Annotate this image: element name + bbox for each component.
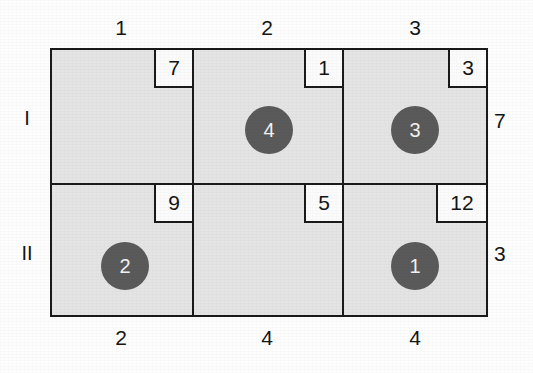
allocation-circle-II-3: 1: [391, 242, 439, 290]
allocation-circle-II-1: 2: [101, 242, 149, 290]
cost-box-II-2: 5: [304, 185, 342, 223]
cell-II-2[interactable]: 5: [194, 185, 344, 315]
cost-box-II-3: 12: [436, 185, 486, 223]
column-header-2: 2: [192, 14, 342, 42]
column-demand-2: 4: [192, 324, 342, 352]
cell-I-1[interactable]: 7: [52, 50, 194, 185]
row-supply-I: 7: [494, 110, 528, 131]
row-header-I: I: [8, 108, 46, 128]
column-header-3: 3: [342, 14, 488, 42]
cost-box-I-1: 7: [154, 50, 192, 88]
cell-I-3[interactable]: 3 3: [344, 50, 486, 185]
column-demand-3: 4: [342, 324, 488, 352]
tableau-grid: 7 1 4 3 3 9 2 5 12 1: [50, 48, 488, 317]
cell-I-2[interactable]: 1 4: [194, 50, 344, 185]
cell-II-3[interactable]: 12 1: [344, 185, 486, 315]
column-demand-1: 2: [50, 324, 192, 352]
cell-II-1[interactable]: 9 2: [52, 185, 194, 315]
cost-box-I-2: 1: [304, 50, 342, 88]
cost-box-II-1: 9: [154, 185, 192, 223]
row-header-II: II: [8, 243, 46, 263]
allocation-circle-I-3: 3: [391, 106, 439, 154]
column-header-1: 1: [50, 14, 192, 42]
transportation-tableau-diagram: 1 2 3 I II 7 3 7 1 4 3 3 9 2 5 12 1: [0, 0, 533, 373]
allocation-circle-I-2: 4: [245, 106, 293, 154]
cost-box-I-3: 3: [448, 50, 486, 88]
row-supply-II: 3: [494, 243, 528, 264]
